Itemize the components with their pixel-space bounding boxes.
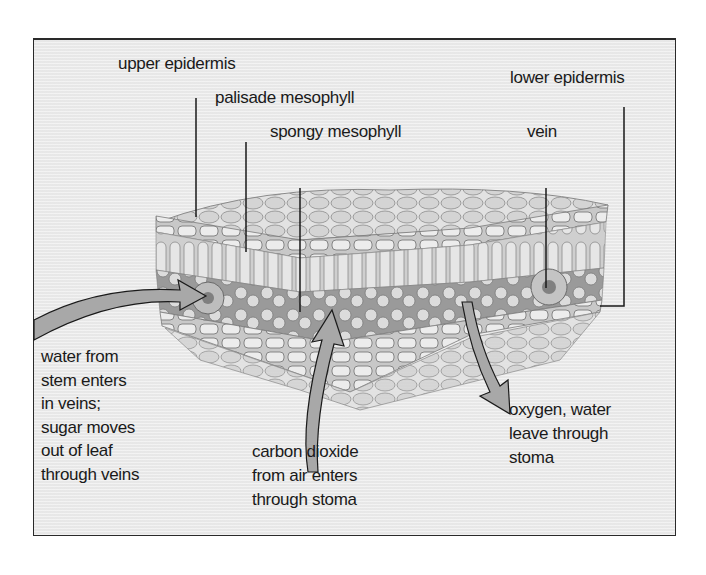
label-palisade-mesophyll: palisade mesophyll	[215, 86, 354, 109]
caption-carbon-dioxide: carbon dioxide from air enters through s…	[252, 440, 358, 512]
label-lower-epidermis: lower epidermis	[510, 66, 625, 89]
label-spongy-mesophyll: spongy mesophyll	[270, 120, 401, 143]
label-vein: vein	[527, 120, 557, 143]
caption-oxygen-water: oxygen, water leave through stoma	[509, 398, 611, 470]
caption-water: water from stem enters in veins; sugar m…	[41, 345, 139, 486]
label-upper-epidermis: upper epidermis	[118, 52, 235, 75]
